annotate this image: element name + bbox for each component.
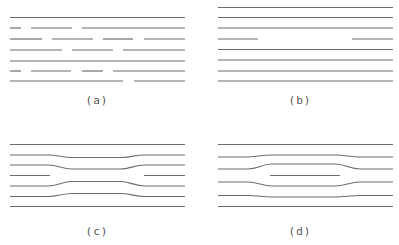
lattice-line [10, 194, 185, 197]
panel-b-lattice-with-gap [218, 8, 393, 82]
panel-label-c: (c) [86, 225, 109, 238]
panel-d-inserted-half-plane [218, 145, 393, 207]
panel-c-edge-dislocation-pair-separated [10, 145, 185, 207]
panel-label-d: (d) [289, 225, 312, 238]
panel-a-lattice-with-vacancy-gaps [10, 18, 185, 82]
lattice-line [218, 182, 393, 186]
lattice-line [218, 155, 393, 157]
dislocation-diagram [0, 0, 399, 245]
panel-label-a: (a) [86, 94, 109, 107]
lattice-line [218, 164, 393, 169]
lattice-line [10, 165, 185, 169]
lattice-line [10, 182, 185, 187]
panel-label-b: (b) [289, 94, 312, 107]
lattice-line [10, 155, 185, 158]
lattice-line [218, 196, 393, 198]
